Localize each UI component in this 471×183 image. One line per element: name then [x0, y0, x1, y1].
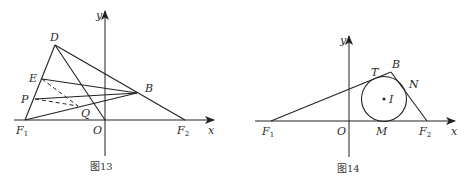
label-o: O [337, 125, 346, 138]
figure-13: D E P Q B O F1 F2 x y 图13 [14, 9, 215, 172]
label-f1: F1 [261, 125, 274, 139]
label-p: P [20, 93, 29, 106]
label-o: O [93, 124, 102, 137]
dashed-p-q [35, 99, 78, 106]
label-e: E [28, 72, 37, 85]
label-b: B [144, 82, 153, 95]
label-q: Q [81, 107, 90, 120]
label-f2: F2 [418, 125, 431, 139]
figure-14: T B N I O M F1 F2 x y 图14 [255, 34, 458, 174]
incenter-dot [383, 98, 386, 101]
x-axis-label: x [451, 125, 458, 138]
segment-d-f2 [55, 45, 185, 120]
label-m: M [375, 125, 388, 138]
segment-p-b [35, 93, 137, 99]
diagram-canvas: D E P Q B O F1 F2 x y 图13 T B N I O M F1… [0, 0, 471, 183]
label-i: I [388, 93, 394, 106]
label-b: B [391, 58, 400, 71]
label-f1: F1 [15, 124, 28, 138]
label-f2: F2 [176, 124, 189, 138]
y-axis-label: y [339, 34, 347, 47]
figure-caption: 图13 [90, 161, 113, 172]
label-n: N [408, 78, 419, 91]
label-d: D [49, 31, 59, 44]
figure-caption: 图14 [337, 163, 360, 174]
x-axis-label: x [208, 124, 215, 137]
y-axis-label: y [95, 9, 103, 22]
segment-e-b [42, 79, 137, 93]
